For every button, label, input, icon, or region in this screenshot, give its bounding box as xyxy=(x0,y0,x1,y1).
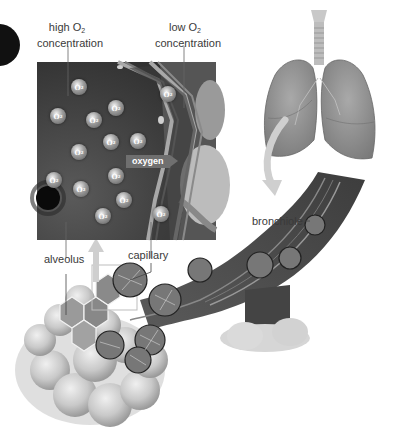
label-high-o2-text: high O xyxy=(49,21,81,33)
label-capillary: capillary xyxy=(128,249,168,261)
inset-panel xyxy=(32,62,230,240)
lungs xyxy=(264,10,375,159)
o2-molecule: O2 xyxy=(50,108,66,124)
o2-molecule: O2 xyxy=(108,100,124,116)
o2-molecule: O2 xyxy=(160,86,176,102)
o2-molecule: O2 xyxy=(108,168,124,184)
up-arrow-head xyxy=(88,238,104,252)
label-alveolus: alveolus xyxy=(44,253,84,265)
o2-molecule: O2 xyxy=(116,192,132,208)
label-high-o2: high O2 concentration xyxy=(37,21,97,49)
label-low-o2-text: low O xyxy=(169,21,197,33)
o2-molecule: O2 xyxy=(86,112,102,128)
o2-molecule: O2 xyxy=(46,172,62,188)
o2-molecule: O2 xyxy=(153,206,169,222)
label-low-o2-line2: concentration xyxy=(155,37,221,49)
label-high-o2-sub: 2 xyxy=(81,27,85,34)
o2-molecule: O2 xyxy=(71,79,87,95)
oxygen-arrow: oxygen xyxy=(126,155,170,168)
o2-molecule: O2 xyxy=(130,133,146,149)
o2-molecule: O2 xyxy=(103,134,119,150)
label-high-o2-line2: concentration xyxy=(37,37,103,49)
o2-molecule: O2 xyxy=(71,144,87,160)
label-bronchiole: bronchiole xyxy=(252,215,303,227)
o2-molecule: O2 xyxy=(95,208,111,224)
label-low-o2-sub: 2 xyxy=(197,27,201,34)
respiratory-illustration xyxy=(0,0,397,436)
label-low-o2: low O2 concentration xyxy=(155,21,215,49)
o2-molecule: O2 xyxy=(73,181,89,197)
oxygen-arrow-label: oxygen xyxy=(132,156,164,166)
curved-arrow-head xyxy=(262,180,282,196)
